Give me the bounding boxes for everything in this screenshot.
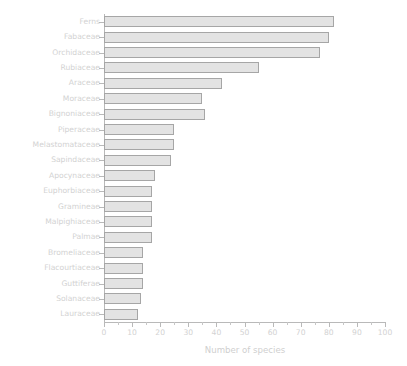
x-axis-tick [104,322,105,327]
bar-row [104,14,334,29]
y-axis-tick [99,99,104,100]
y-axis-tick-label: Sapindaceae [0,156,100,164]
y-axis-tick [99,253,104,254]
y-axis-tick-label: Orchidaceae [0,49,100,57]
bar-row [104,214,152,229]
x-axis-tick-label: 10 [127,329,137,337]
x-axis-tick-label: 50 [240,329,250,337]
x-axis-tick [216,322,217,327]
y-axis-tick-label: Euphorbiaceae [0,187,100,195]
chart-figure: FernsFabaceaeOrchidaceaeRubiaceaeAraceae… [0,0,407,366]
x-axis-minor-tick [118,322,119,325]
x-axis-minor-tick [146,322,147,325]
bar-row [104,29,329,44]
y-axis-tick [99,191,104,192]
x-axis-tick-label: 20 [155,329,165,337]
bar [104,93,202,104]
y-axis-tick [99,268,104,269]
bar [104,247,143,258]
bar [104,78,222,89]
y-axis-tick-label: Bromeliaceae [0,249,100,257]
bar-row [104,260,143,275]
bar-row [104,106,205,121]
y-axis-tick-label: Solanaceae [0,295,100,303]
x-axis-tick-label: 70 [296,329,306,337]
y-axis-tick [99,130,104,131]
x-axis-tick-label: 30 [183,329,193,337]
bar [104,62,259,73]
y-axis-tick [99,68,104,69]
bar-row [104,199,152,214]
y-axis-tick-label: Lauraceae [0,310,100,318]
y-axis-tick [99,314,104,315]
y-axis-tick-label: Flacourtiaceae [0,264,100,272]
bar-row [104,91,202,106]
x-axis-tick-label: 100 [378,329,393,337]
x-axis-tick-label: 90 [352,329,362,337]
bar-row [104,183,152,198]
x-axis-minor-tick [371,322,372,325]
y-axis-tick [99,284,104,285]
bar [104,263,143,274]
y-axis-tick-label: Moraceae [0,95,100,103]
y-axis-tick-label: Fabaceae [0,33,100,41]
x-axis-minor-tick [230,322,231,325]
x-axis-tick [301,322,302,327]
bar [104,186,152,197]
x-axis-tick-label: 0 [102,329,107,337]
bar-row [104,76,222,91]
y-axis-tick-label: Piperaceae [0,126,100,134]
y-axis-tick-label: Palmae [0,233,100,241]
y-axis-tick-label: Ferns [0,18,100,26]
y-axis-tick-label: Gramineae [0,203,100,211]
bar-row [104,45,320,60]
y-axis-tick-label: Bignoniaceae [0,110,100,118]
x-axis-tick-label: 40 [212,329,222,337]
y-axis-tick-label: Araceae [0,79,100,87]
y-axis-tick [99,114,104,115]
bar-row [104,60,259,75]
bar [104,201,152,212]
bar [104,155,171,166]
x-axis-tick [160,322,161,327]
bar [104,278,143,289]
y-axis-tick [99,37,104,38]
y-axis-tick [99,222,104,223]
x-axis-tick-label: 60 [268,329,278,337]
y-axis-tick [99,299,104,300]
y-axis-tick-label: Guttiferae [0,280,100,288]
bar [104,109,205,120]
x-axis-minor-tick [343,322,344,325]
bar [104,16,334,27]
bar-row [104,230,152,245]
y-axis-tick [99,83,104,84]
x-axis-tick-label: 80 [324,329,334,337]
bar [104,124,174,135]
bar-row [104,276,143,291]
x-axis-tick [132,322,133,327]
y-axis-tick [99,22,104,23]
x-axis-tick [273,322,274,327]
y-axis-tick [99,145,104,146]
y-axis-tick [99,176,104,177]
y-axis-tick-label: Malpighiaceae [0,218,100,226]
bar-row [104,245,143,260]
bar-row [104,153,171,168]
y-axis-tick-label: Rubiaceae [0,64,100,72]
bar [104,216,152,227]
x-axis-minor-tick [287,322,288,325]
y-axis-tick [99,237,104,238]
bar-row [104,307,138,322]
plot-area [104,14,385,322]
x-axis-title: Number of species [104,346,386,355]
x-axis-minor-tick [259,322,260,325]
x-axis-tick [188,322,189,327]
x-axis-tick [385,322,386,327]
bar-row [104,137,174,152]
bar [104,170,155,181]
x-axis-minor-tick [315,322,316,325]
bar [104,47,320,58]
x-axis-minor-tick [174,322,175,325]
x-axis-tick [357,322,358,327]
x-axis-tick [245,322,246,327]
